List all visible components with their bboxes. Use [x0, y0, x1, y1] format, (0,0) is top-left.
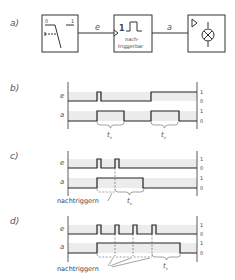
- b-level-e-1: 1: [200, 89, 203, 95]
- monoflop-symbol: 1: [119, 24, 125, 33]
- d-level-a-1: 1: [200, 240, 203, 246]
- lamp-block: [188, 15, 225, 52]
- panel-label-c: c): [10, 151, 18, 161]
- switch-label-1: 1: [71, 18, 74, 24]
- monoflop-text-1: nach-: [125, 36, 139, 42]
- d-level-e-1: 1: [200, 222, 203, 228]
- d-tv: tv: [163, 262, 169, 271]
- monoflop-block: 1 nach- triggerbar: [114, 15, 152, 52]
- c-retrigger-label: nachtriggern: [57, 197, 99, 205]
- signal-a-label: a: [167, 23, 172, 32]
- b-tv-2: tv: [161, 131, 167, 140]
- b-tv-1: tv: [107, 131, 113, 140]
- signal-e-label: e: [95, 23, 100, 32]
- d-label-e: e: [60, 225, 64, 233]
- b-level-a-1: 1: [200, 108, 203, 114]
- c-level-e-1: 1: [200, 156, 203, 162]
- monoflop-text-2: triggerbar: [118, 43, 144, 50]
- panel-label-b: b): [10, 83, 19, 93]
- panel-label-d: d): [10, 216, 19, 226]
- switch-label-0: 0: [45, 18, 48, 24]
- c-level-a-0: 0: [200, 185, 203, 191]
- b-level-e-0: 0: [200, 98, 203, 104]
- monoflop-diagram: a) b) c) d) 0 1 e 1 nach- triggerbar a: [0, 0, 235, 280]
- d-retrigger-label: nachtriggern: [57, 265, 99, 273]
- d-label-a: a: [60, 243, 64, 251]
- timing-c: e a 1 0 1 0 nachtriggern tv: [57, 151, 203, 206]
- c-level-a-1: 1: [200, 175, 203, 181]
- c-level-e-0: 0: [200, 165, 203, 171]
- timing-b: e a 1 0 1 0 tv tv: [60, 82, 203, 140]
- d-level-e-0: 0: [200, 231, 203, 237]
- switch-block: 0 1: [42, 15, 78, 52]
- c-label-e: e: [60, 159, 64, 167]
- timing-d: e a 1 0 1 0 nachtriggern tv: [57, 216, 203, 273]
- b-label-a: a: [60, 111, 64, 119]
- c-tv: tv: [127, 197, 133, 206]
- b-level-a-0: 0: [200, 118, 203, 124]
- d-level-a-0: 0: [200, 250, 203, 256]
- panel-label-a: a): [10, 18, 19, 28]
- c-label-a: a: [60, 178, 64, 186]
- b-label-e: e: [60, 92, 64, 100]
